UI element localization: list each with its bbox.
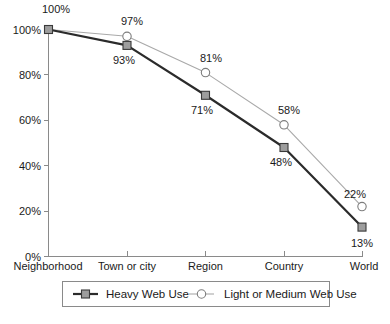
value-label-light-country: 58% (278, 104, 300, 116)
value-label-neighborhood-100: 100% (42, 3, 70, 15)
x-axis-label-region: Region (188, 260, 223, 272)
x-axis-ticks (49, 251, 363, 257)
y-axis-label-80: 80% (19, 69, 41, 81)
data-point-heavy-world (358, 223, 366, 231)
legend-square-icon (82, 290, 90, 298)
y-axis-label-100: 100% (13, 24, 41, 36)
y-axis-label-40: 40% (19, 160, 41, 172)
chart-container: 100% 80% 60% 40% 20% 0% Neighborhood Tow… (0, 0, 390, 324)
value-label-heavy-town-or-city: 93% (113, 54, 135, 66)
value-label-light-town-or-city: 97% (121, 15, 143, 27)
chart-legend: Heavy Web Use Light or Medium Web Use (63, 282, 357, 307)
data-point-heavy-country (280, 144, 288, 152)
data-point-heavy-neighborhood (45, 26, 53, 34)
y-axis-label-60: 60% (19, 114, 41, 126)
data-point-light-world (358, 202, 366, 210)
value-labels: 100% 97% 81% 58% 22% 93% 71% 48% 13% (42, 3, 373, 249)
value-label-light-region: 81% (200, 52, 222, 64)
value-label-heavy-world: 13% (351, 237, 373, 249)
line-chart: 100% 80% 60% 40% 20% 0% Neighborhood Tow… (0, 0, 390, 324)
data-point-heavy-region (202, 91, 210, 99)
x-axis-label-neighborhood: Neighborhood (13, 260, 82, 272)
x-axis-label-world: World (350, 260, 379, 272)
x-axis-label-country: Country (265, 260, 304, 272)
data-point-light-country (280, 121, 288, 129)
y-axis-labels: 100% 80% 60% 40% 20% 0% (13, 24, 41, 263)
y-axis-ticks (44, 30, 49, 257)
data-point-light-town-or-city (123, 32, 131, 40)
x-axis-label-town-or-city: Town or city (98, 260, 157, 272)
y-axis-label-20: 20% (19, 205, 41, 217)
data-point-heavy-town-or-city (123, 41, 131, 49)
legend-label-light-or-medium-web-use: Light or Medium Web Use (224, 288, 357, 300)
data-point-light-region (201, 68, 209, 76)
value-label-heavy-country: 48% (270, 156, 292, 168)
value-label-heavy-region: 71% (191, 104, 213, 116)
value-label-light-world: 22% (344, 188, 366, 200)
x-axis-labels: Neighborhood Town or city Region Country… (13, 260, 378, 272)
legend-circle-icon (197, 290, 205, 298)
legend-label-heavy-web-use: Heavy Web Use (106, 288, 189, 300)
